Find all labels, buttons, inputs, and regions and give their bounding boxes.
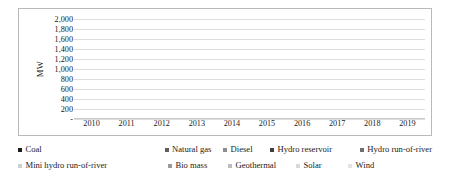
y-tick-label: - [70, 115, 73, 124]
x-tick-label: 2014 [216, 119, 248, 129]
legend-item[interactable]: Bio mass [168, 160, 228, 171]
x-axis-tick-labels: 2010201120122013201420152016201720182019 [74, 119, 425, 134]
x-tick-label: 2015 [251, 119, 283, 129]
bar-slot [181, 19, 213, 119]
bar-slot [357, 19, 389, 119]
bar-group [74, 19, 425, 119]
legend-item[interactable]: Diesel [223, 144, 270, 155]
legend-label: Diesel [231, 144, 253, 155]
x-tick-label: 2013 [181, 119, 213, 129]
legend-label: Geothermal [236, 160, 277, 171]
y-tick-label: 400 [61, 95, 73, 104]
y-tick-label: 800 [61, 75, 73, 84]
x-tick-label: 2011 [111, 119, 143, 129]
y-tick-label: 1,200 [55, 55, 73, 64]
legend-label: Hydro run-of-river [367, 144, 432, 155]
legend-label: Mini hydro run-of-river [26, 160, 108, 171]
x-tick-label: 2012 [146, 119, 178, 129]
legend-label: Natural gas [172, 144, 211, 155]
bar-slot [146, 19, 178, 119]
legend-label: Bio mass [176, 160, 208, 171]
legend-item[interactable]: Hydro run-of-river [360, 144, 432, 155]
y-tick-label: 2,000 [55, 15, 73, 24]
legend-label: Solar [304, 160, 322, 171]
x-tick-label: 2018 [357, 119, 389, 129]
legend-item[interactable]: Geothermal [228, 160, 296, 171]
x-tick-label: 2019 [392, 119, 424, 129]
plot-frame: MW 2,0001,8001,6001,4001,2001,0008006004… [18, 8, 432, 136]
y-tick-label: 1,600 [55, 35, 73, 44]
legend-swatch-icon [296, 164, 300, 168]
bar-slot [111, 19, 143, 119]
x-tick-label: 2010 [76, 119, 108, 129]
legend-swatch-icon [270, 148, 274, 152]
legend-swatch-icon [228, 164, 232, 168]
bar-slot [321, 19, 353, 119]
x-tick-label: 2017 [321, 119, 353, 129]
legend-item[interactable]: Solar [296, 160, 348, 171]
legend-swatch-icon [360, 148, 364, 152]
y-tick-label: 1,000 [55, 65, 73, 74]
y-tick-label: 600 [61, 85, 73, 94]
legend-swatch-icon [168, 164, 172, 168]
legend-item[interactable]: Natural gas [165, 144, 224, 155]
legend-swatch-icon [18, 164, 22, 168]
x-tick-label: 2016 [286, 119, 318, 129]
legend-swatch-icon [18, 148, 22, 152]
legend-swatch-icon [348, 164, 352, 168]
y-axis-tick-labels: 2,0001,8001,6001,4001,2001,0008006004002… [33, 19, 73, 119]
legend-swatch-icon [223, 148, 227, 152]
bar-slot [251, 19, 283, 119]
legend-row-2: Mini hydro run-of-riverBio massGeotherma… [18, 160, 432, 176]
legend-row-1: CoalNatural gasDieselHydro reservoirHydr… [18, 144, 432, 160]
legend-label: Coal [26, 144, 42, 155]
y-tick-label: 1,800 [55, 25, 73, 34]
legend-item[interactable]: Wind [348, 160, 374, 171]
legend-item[interactable]: Hydro reservoir [270, 144, 360, 155]
legend-item[interactable]: Coal [18, 144, 165, 155]
bar-slot [286, 19, 318, 119]
legend-label: Wind [356, 160, 375, 171]
bar-slot [76, 19, 108, 119]
y-tick-label: 200 [61, 105, 73, 114]
chart-legend: CoalNatural gasDieselHydro reservoirHydr… [18, 144, 432, 188]
y-tick-label: 1,400 [55, 45, 73, 54]
legend-swatch-icon [165, 148, 169, 152]
bar-slot [392, 19, 424, 119]
legend-item[interactable]: Mini hydro run-of-river [18, 160, 168, 171]
legend-label: Hydro reservoir [277, 144, 332, 155]
bar-slot [216, 19, 248, 119]
plot-area [74, 19, 425, 119]
chart-figure: MW 2,0001,8001,6001,4001,2001,0008006004… [0, 0, 450, 196]
